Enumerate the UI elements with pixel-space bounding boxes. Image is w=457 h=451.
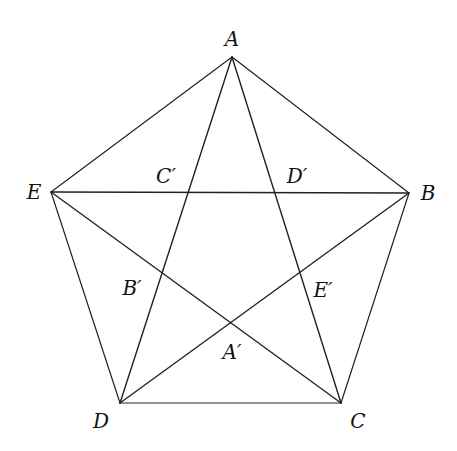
label-D: D <box>92 409 109 433</box>
edge-BC <box>341 193 409 403</box>
edge-AB <box>232 57 409 193</box>
label-C-prime: C′ <box>156 164 176 188</box>
diagonal-BE <box>51 192 409 193</box>
label-B: B <box>420 181 436 205</box>
diagonal-AC <box>232 57 341 403</box>
diagonal-BD <box>120 193 409 403</box>
diagonal-AD <box>120 57 232 403</box>
label-E: E <box>26 180 42 204</box>
label-A-prime: A′ <box>221 340 242 364</box>
label-B-prime: B′ <box>121 276 142 300</box>
edge-DE <box>51 192 120 403</box>
label-C: C <box>350 409 365 433</box>
label-E-prime: E′ <box>312 278 333 302</box>
diagonal-CE <box>51 192 341 403</box>
label-A: A <box>223 27 239 51</box>
edge-EA <box>51 57 232 192</box>
pentagon-diagram: A B C D E A′ B′ C′ D′ E′ <box>0 0 457 451</box>
inner-point-labels: A′ B′ C′ D′ E′ <box>121 164 333 364</box>
vertex-labels: A B C D E <box>26 27 436 433</box>
label-D-prime: D′ <box>286 164 308 188</box>
